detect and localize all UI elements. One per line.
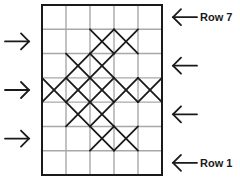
arrow-right-icon [5, 33, 29, 49]
cross-stitch-icon [90, 126, 114, 150]
cross-stitch-icon [42, 78, 66, 102]
cross-stitch-icon [90, 102, 114, 126]
row-label-7: Row 7 [200, 11, 232, 23]
cross-stitch-icon [66, 78, 90, 102]
cross-stitch-icon [114, 78, 138, 102]
cross-stitch-icon [90, 29, 114, 53]
cross-stitch-icon [66, 54, 90, 78]
cross-stitch-icon [114, 29, 138, 53]
cross-stitch-icon [138, 78, 162, 102]
arrow-left-icon [173, 106, 197, 122]
cross-stitch-icon [66, 102, 90, 126]
arrow-left-icon [173, 58, 197, 74]
cross-stitch-icon [90, 54, 114, 78]
arrow-right-icon [5, 82, 29, 98]
knitting-chart-diagram: Row 7Row 1 [0, 0, 240, 192]
cross-stitch-icon [90, 78, 114, 102]
row-label-1: Row 1 [200, 157, 232, 169]
arrow-right-icon [5, 131, 29, 147]
arrow-left-icon [173, 155, 197, 171]
cross-stitch-icon [114, 126, 138, 150]
stitch-marks [42, 29, 162, 150]
arrow-left-icon [173, 9, 197, 25]
